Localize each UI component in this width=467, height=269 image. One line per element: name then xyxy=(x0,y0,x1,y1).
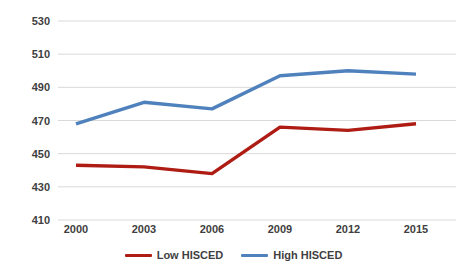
y-axis-tick-label: 450 xyxy=(32,148,50,160)
x-axis-tick-label: 2000 xyxy=(64,223,88,235)
y-axis-tick-label: 510 xyxy=(32,48,50,60)
x-axis-tick-label: 2006 xyxy=(200,223,224,235)
y-axis-tick-label: 490 xyxy=(32,81,50,93)
legend-label: High HISCED xyxy=(273,250,342,261)
legend-line-swatch xyxy=(125,254,152,257)
legend-item-low-hisced: Low HISCED xyxy=(125,250,224,261)
y-axis-tick-label: 410 xyxy=(32,214,50,226)
legend: Low HISCEDHigh HISCED xyxy=(0,250,467,261)
x-axis-tick-label: 2009 xyxy=(268,223,292,235)
plot-area: 5305104904704504304102000200320062009201… xyxy=(0,0,467,269)
y-axis-tick-label: 530 xyxy=(32,15,50,27)
legend-item-high-hisced: High HISCED xyxy=(241,250,342,261)
legend-label: Low HISCED xyxy=(157,250,224,261)
x-axis-tick-label: 2012 xyxy=(336,223,360,235)
x-axis-tick-label: 2015 xyxy=(404,223,428,235)
y-axis-tick-label: 470 xyxy=(32,115,50,127)
legend-line-swatch xyxy=(241,254,268,257)
line-chart: 5305104904704504304102000200320062009201… xyxy=(0,0,467,269)
series-line-low-hisced xyxy=(76,124,416,174)
x-axis-tick-label: 2003 xyxy=(132,223,156,235)
series-line-high-hisced xyxy=(76,71,416,124)
y-axis-tick-label: 430 xyxy=(32,181,50,193)
